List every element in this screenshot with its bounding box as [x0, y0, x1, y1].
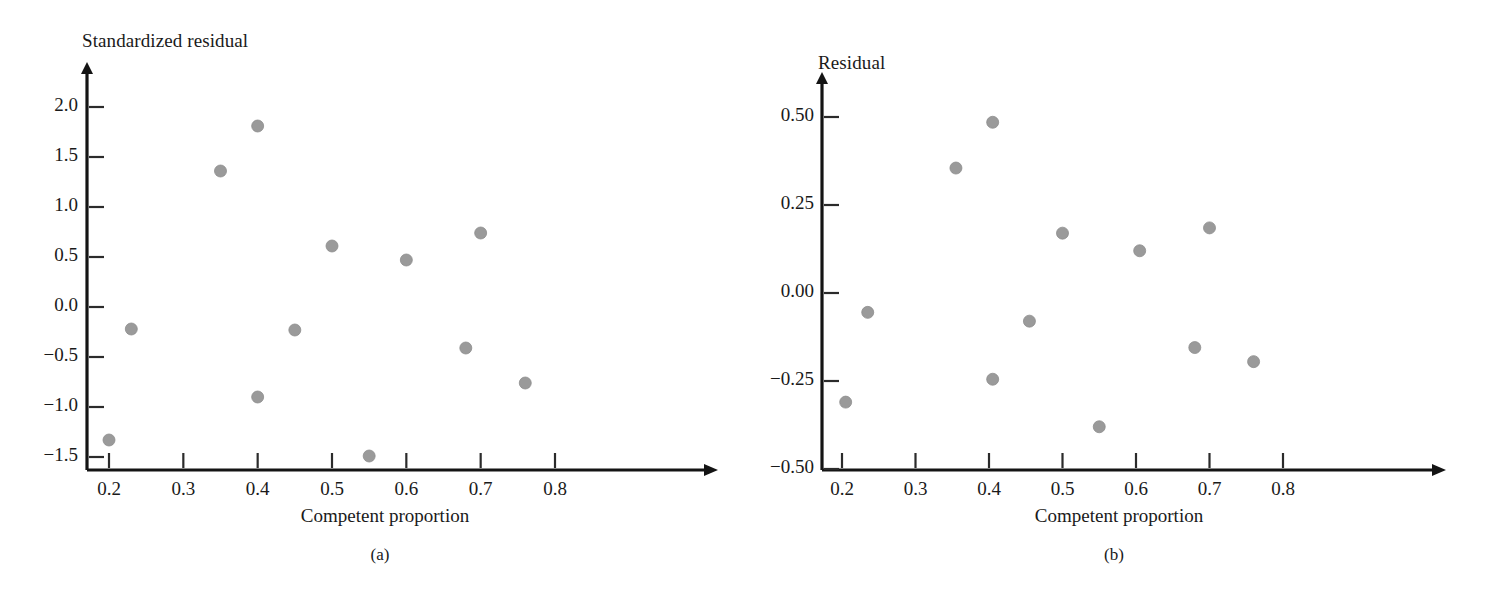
panel-b-x-tick-label: 0.5 — [1033, 478, 1093, 500]
data-point — [1134, 245, 1146, 257]
data-point — [1023, 315, 1035, 327]
data-point — [1248, 356, 1260, 368]
data-point — [950, 162, 962, 174]
data-point — [1189, 342, 1201, 354]
data-point — [400, 254, 412, 266]
data-point — [103, 434, 115, 446]
data-point — [252, 391, 264, 403]
panel-b-caption: (b) — [1054, 545, 1174, 565]
data-point — [840, 396, 852, 408]
panel-b-x-tick-label: 0.2 — [812, 478, 872, 500]
panel-a-caption: (a) — [320, 545, 440, 565]
panel-a-y-tick-label: 1.0 — [54, 194, 78, 216]
panel-a-x-axis-title: Competent proportion — [215, 505, 555, 527]
panel-b-y-tick-label: −0.50 — [770, 456, 814, 478]
panel-b-x-tick-label: 0.3 — [886, 478, 946, 500]
data-point — [252, 120, 264, 132]
panel-a-y-tick-label: −1.5 — [44, 444, 78, 466]
panel-b-y-tick-label: −0.25 — [770, 368, 814, 390]
panel-b-residual: Residual Competent proportion (b) 0.500.… — [744, 0, 1489, 598]
panel-a-x-tick-label: 0.8 — [525, 478, 585, 500]
panel-b-y-axis-title: Residual — [818, 52, 885, 74]
data-point — [215, 165, 227, 177]
data-point — [1057, 227, 1069, 239]
panel-b-y-tick-label: 0.25 — [781, 192, 814, 214]
panel-a-x-tick-label: 0.4 — [228, 478, 288, 500]
panel-a-standardized-residual: Standardized residual Competent proporti… — [0, 0, 745, 598]
data-point — [289, 324, 301, 336]
panel-a-y-tick-label: 2.0 — [54, 94, 78, 116]
panel-b-x-tick-label: 0.8 — [1253, 478, 1313, 500]
data-point — [1204, 222, 1216, 234]
panel-a-x-tick-label: 0.3 — [153, 478, 213, 500]
data-point — [1093, 421, 1105, 433]
panel-a-y-tick-label: 0.0 — [54, 294, 78, 316]
panel-a-x-tick-label: 0.2 — [79, 478, 139, 500]
panel-a-y-axis-title: Standardized residual — [82, 30, 248, 52]
panel-a-x-tick-label: 0.5 — [302, 478, 362, 500]
panel-a-y-tick-label: 1.5 — [54, 144, 78, 166]
residual-plots-figure: Standardized residual Competent proporti… — [0, 0, 1489, 598]
data-point — [519, 377, 531, 389]
panel-a-y-tick-label: −0.5 — [44, 344, 78, 366]
panel-a-y-tick-label: 0.5 — [54, 244, 78, 266]
data-point — [475, 227, 487, 239]
data-point — [460, 342, 472, 354]
panel-a-y-tick-label: −1.0 — [44, 394, 78, 416]
panel-b-x-tick-label: 0.7 — [1180, 478, 1240, 500]
data-point — [363, 450, 375, 462]
data-point — [987, 373, 999, 385]
panel-b-x-tick-label: 0.4 — [959, 478, 1019, 500]
panel-b-x-axis-title: Competent proportion — [949, 505, 1289, 527]
panel-b-x-tick-label: 0.6 — [1106, 478, 1166, 500]
panel-a-x-tick-label: 0.7 — [451, 478, 511, 500]
data-point — [862, 306, 874, 318]
data-point — [125, 323, 137, 335]
data-point — [987, 116, 999, 128]
panel-b-y-tick-label: 0.50 — [781, 104, 814, 126]
panel-b-y-tick-label: 0.00 — [781, 280, 814, 302]
data-point — [326, 240, 338, 252]
panel-a-x-tick-label: 0.6 — [376, 478, 436, 500]
